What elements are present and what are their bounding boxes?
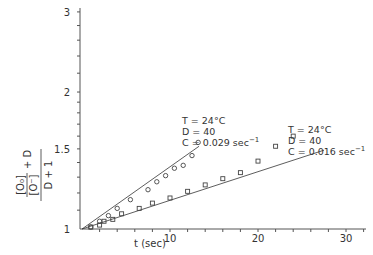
annotation-line: D = 40 (288, 135, 321, 146)
chart: 10203011.523 T = 24°CD = 40C = 0.029 sec… (0, 0, 373, 255)
circle-marker (146, 188, 150, 192)
circle-marker (115, 206, 119, 210)
y-axis-label: [O₀] [O⁻] + D D + 1 (15, 149, 54, 201)
square-marker (238, 171, 242, 175)
square-marker (203, 183, 207, 187)
y-label-denominator: D + 1 (43, 161, 54, 190)
square-marker (221, 177, 225, 181)
circle-marker (155, 180, 159, 184)
fit-line-2 (82, 150, 324, 229)
x-tick-label: 30 (340, 233, 353, 244)
data-points (89, 134, 296, 229)
fit-line-1 (82, 146, 199, 229)
circle-marker (181, 163, 185, 167)
square-marker (150, 201, 154, 205)
annotations: T = 24°CD = 40C = 0.029 sec−1T = 24°CD =… (181, 115, 365, 157)
y-label-plus-d: + D (22, 149, 33, 169)
circle-marker (128, 197, 132, 201)
square-marker (120, 212, 124, 216)
annotation-line: C = 0.029 sec−1 (182, 136, 259, 148)
square-marker (186, 189, 190, 193)
circle-marker (190, 153, 194, 157)
annotation-line: T = 24°C (181, 115, 226, 126)
annotation-1: T = 24°CD = 40C = 0.029 sec−1 (181, 115, 259, 148)
annotation-2: T = 24°CD = 40C = 0.016 sec−1 (287, 124, 365, 157)
x-axis-label: t (sec) (134, 238, 166, 249)
annotation-line: D = 40 (182, 126, 215, 137)
y-label-frac-top: [O₀] (15, 175, 26, 195)
y-tick-label: 2 (64, 87, 70, 98)
y-tick-label: 1.5 (54, 144, 70, 155)
annotation-line: C = 0.016 sec−1 (288, 145, 365, 157)
circle-marker (106, 213, 110, 217)
square-marker (274, 144, 278, 148)
y-tick-label: 1 (64, 224, 70, 235)
y-tick-label: 3 (64, 7, 70, 18)
fit-lines (82, 146, 324, 229)
superscript: −1 (355, 145, 365, 153)
square-marker (256, 159, 260, 163)
y-label-frac-bottom: [O⁻] (28, 174, 39, 195)
circle-marker (163, 173, 167, 177)
annotation-line: T = 24°C (287, 124, 332, 135)
circle-marker (172, 166, 176, 170)
square-marker (168, 196, 172, 200)
x-tick-label: 20 (252, 233, 265, 244)
superscript: −1 (249, 136, 259, 144)
